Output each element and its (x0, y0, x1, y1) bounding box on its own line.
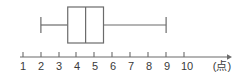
tick-label: 6 (110, 60, 116, 72)
tick-label: 9 (164, 60, 170, 72)
tick-label: 1 (20, 60, 26, 72)
tick-label: 10 (181, 60, 193, 72)
tick-label: 5 (92, 60, 98, 72)
x-axis-unit-label: (点) (213, 60, 231, 72)
tick-label: 4 (74, 60, 80, 72)
tick-label: 7 (128, 60, 134, 72)
boxplot-figure: 1 2 3 4 5 6 7 8 9 10 (点) (0, 0, 249, 73)
x-axis-ticks (23, 52, 184, 57)
tick-label: 8 (146, 60, 152, 72)
tick-label: 2 (38, 60, 44, 72)
boxplot-canvas: 1 2 3 4 5 6 7 8 9 10 (点) (0, 0, 249, 73)
x-axis-tick-labels: 1 2 3 4 5 6 7 8 9 10 (20, 60, 193, 72)
tick-label: 3 (56, 60, 62, 72)
axis-arrow-icon (227, 54, 232, 60)
